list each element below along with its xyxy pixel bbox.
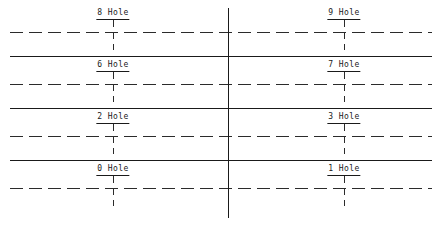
hole-label-0: 0 Hole <box>96 164 129 176</box>
hole-label-2: 2 Hole <box>96 112 129 124</box>
hole-label-3: 3 Hole <box>327 112 360 124</box>
hole-label-6: 6 Hole <box>96 60 129 72</box>
engineering-drawing-canvas: 8 Hole9 Hole6 Hole7 Hole2 Hole3 Hole0 Ho… <box>0 0 442 226</box>
hole-label-9: 9 Hole <box>327 8 360 20</box>
hole-label-7: 7 Hole <box>327 60 360 72</box>
drawing-lines-layer <box>0 0 442 226</box>
dashed-centerline-group <box>10 32 432 188</box>
solid-rule-group <box>10 56 432 160</box>
hole-label-8: 8 Hole <box>96 8 129 20</box>
hole-label-1: 1 Hole <box>327 164 360 176</box>
